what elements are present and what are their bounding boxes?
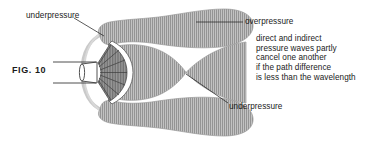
figure-caption: FIG. 10 xyxy=(12,66,46,76)
note-line-2: pressure waves partly xyxy=(256,44,356,54)
explanatory-note: direct and indirect pressure waves partl… xyxy=(256,34,356,83)
label-underpressure-top: underpressure xyxy=(26,11,79,21)
note-line-5: is less than the wavelength xyxy=(256,73,356,83)
figure-10-diagram: FIG. 10 underpressure overpressure under… xyxy=(0,0,378,146)
note-line-3: cancel one another xyxy=(256,53,356,63)
note-line-4: if the path difference xyxy=(256,63,356,73)
label-overpressure: overpressure xyxy=(245,17,293,27)
leader-underpressure-top xyxy=(74,18,104,36)
voice-coil-magnet xyxy=(79,62,97,83)
central-hourglass-overpressure-region xyxy=(117,42,246,103)
note-line-1: direct and indirect xyxy=(256,34,356,44)
upper-rear-underpressure-lobe xyxy=(98,9,253,48)
label-underpressure-bottom: underpressure xyxy=(229,102,282,112)
